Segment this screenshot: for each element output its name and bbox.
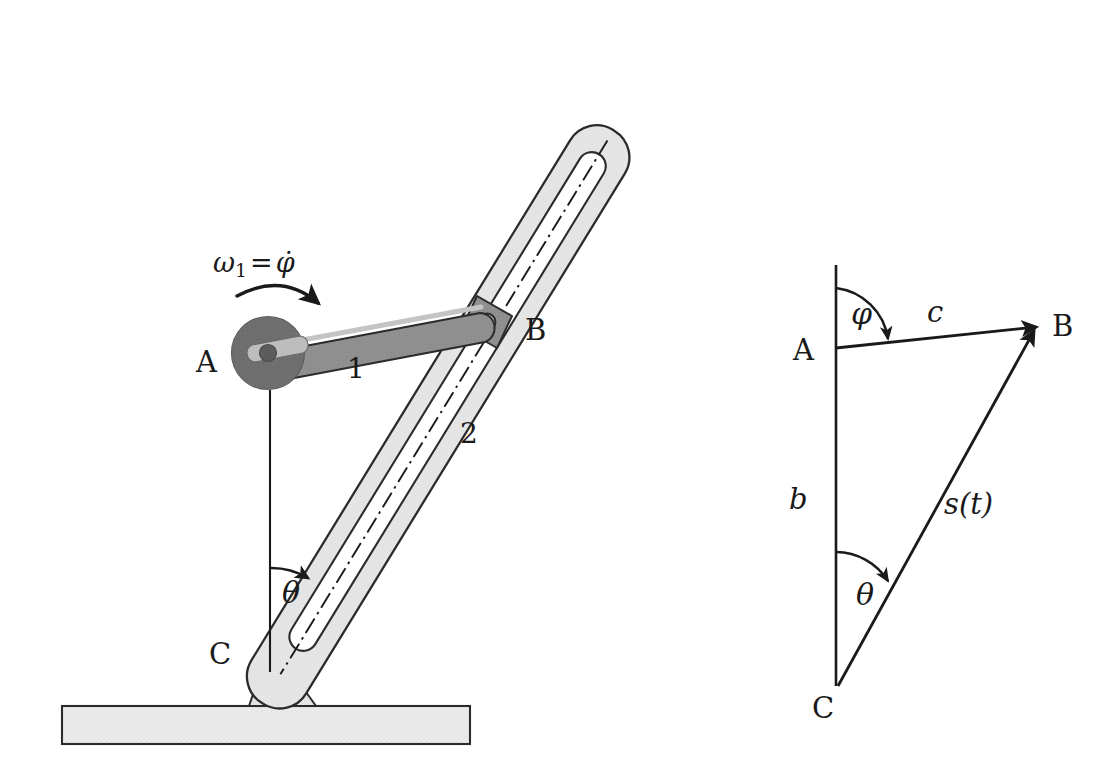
triangle-label-phi: φ [851, 299, 872, 329]
mechanism-label-b: B [525, 316, 546, 345]
triangle-label-a: A [793, 336, 814, 365]
drive-disk-a [232, 317, 308, 390]
figure-canvas: ω1=φ̇ A 1 B 2 θ C A φ c B b s(t) θ C [0, 0, 1103, 780]
slotted-link-2 [235, 114, 641, 720]
triangle-label-theta: θ [856, 580, 874, 610]
omega-equals: = [247, 247, 276, 278]
omega-value: φ̇ [276, 247, 295, 278]
triangle-label-side-b: b [789, 485, 808, 514]
omega-label: ω1=φ̇ [213, 249, 295, 280]
mechanism-label-link-2: 2 [460, 420, 478, 448]
mechanism-label-link-1: 1 [347, 355, 365, 383]
omega-symbol: ω [213, 247, 235, 278]
triangle-label-b: B [1052, 312, 1073, 341]
triangle-label-side-c: c [927, 298, 943, 327]
ground-bar [62, 706, 470, 744]
vector-s-line [838, 331, 1034, 686]
mechanism-label-c: C [209, 640, 231, 669]
mechanism-label-a: A [196, 348, 217, 377]
mechanism-drawing [0, 0, 1103, 780]
omega-subscript: 1 [235, 259, 247, 281]
triangle-label-c: C [812, 694, 834, 723]
mechanism-label-theta: θ [282, 578, 300, 608]
triangle-label-side-s: s(t) [944, 490, 993, 519]
omega-rotation-arrow [237, 286, 318, 303]
